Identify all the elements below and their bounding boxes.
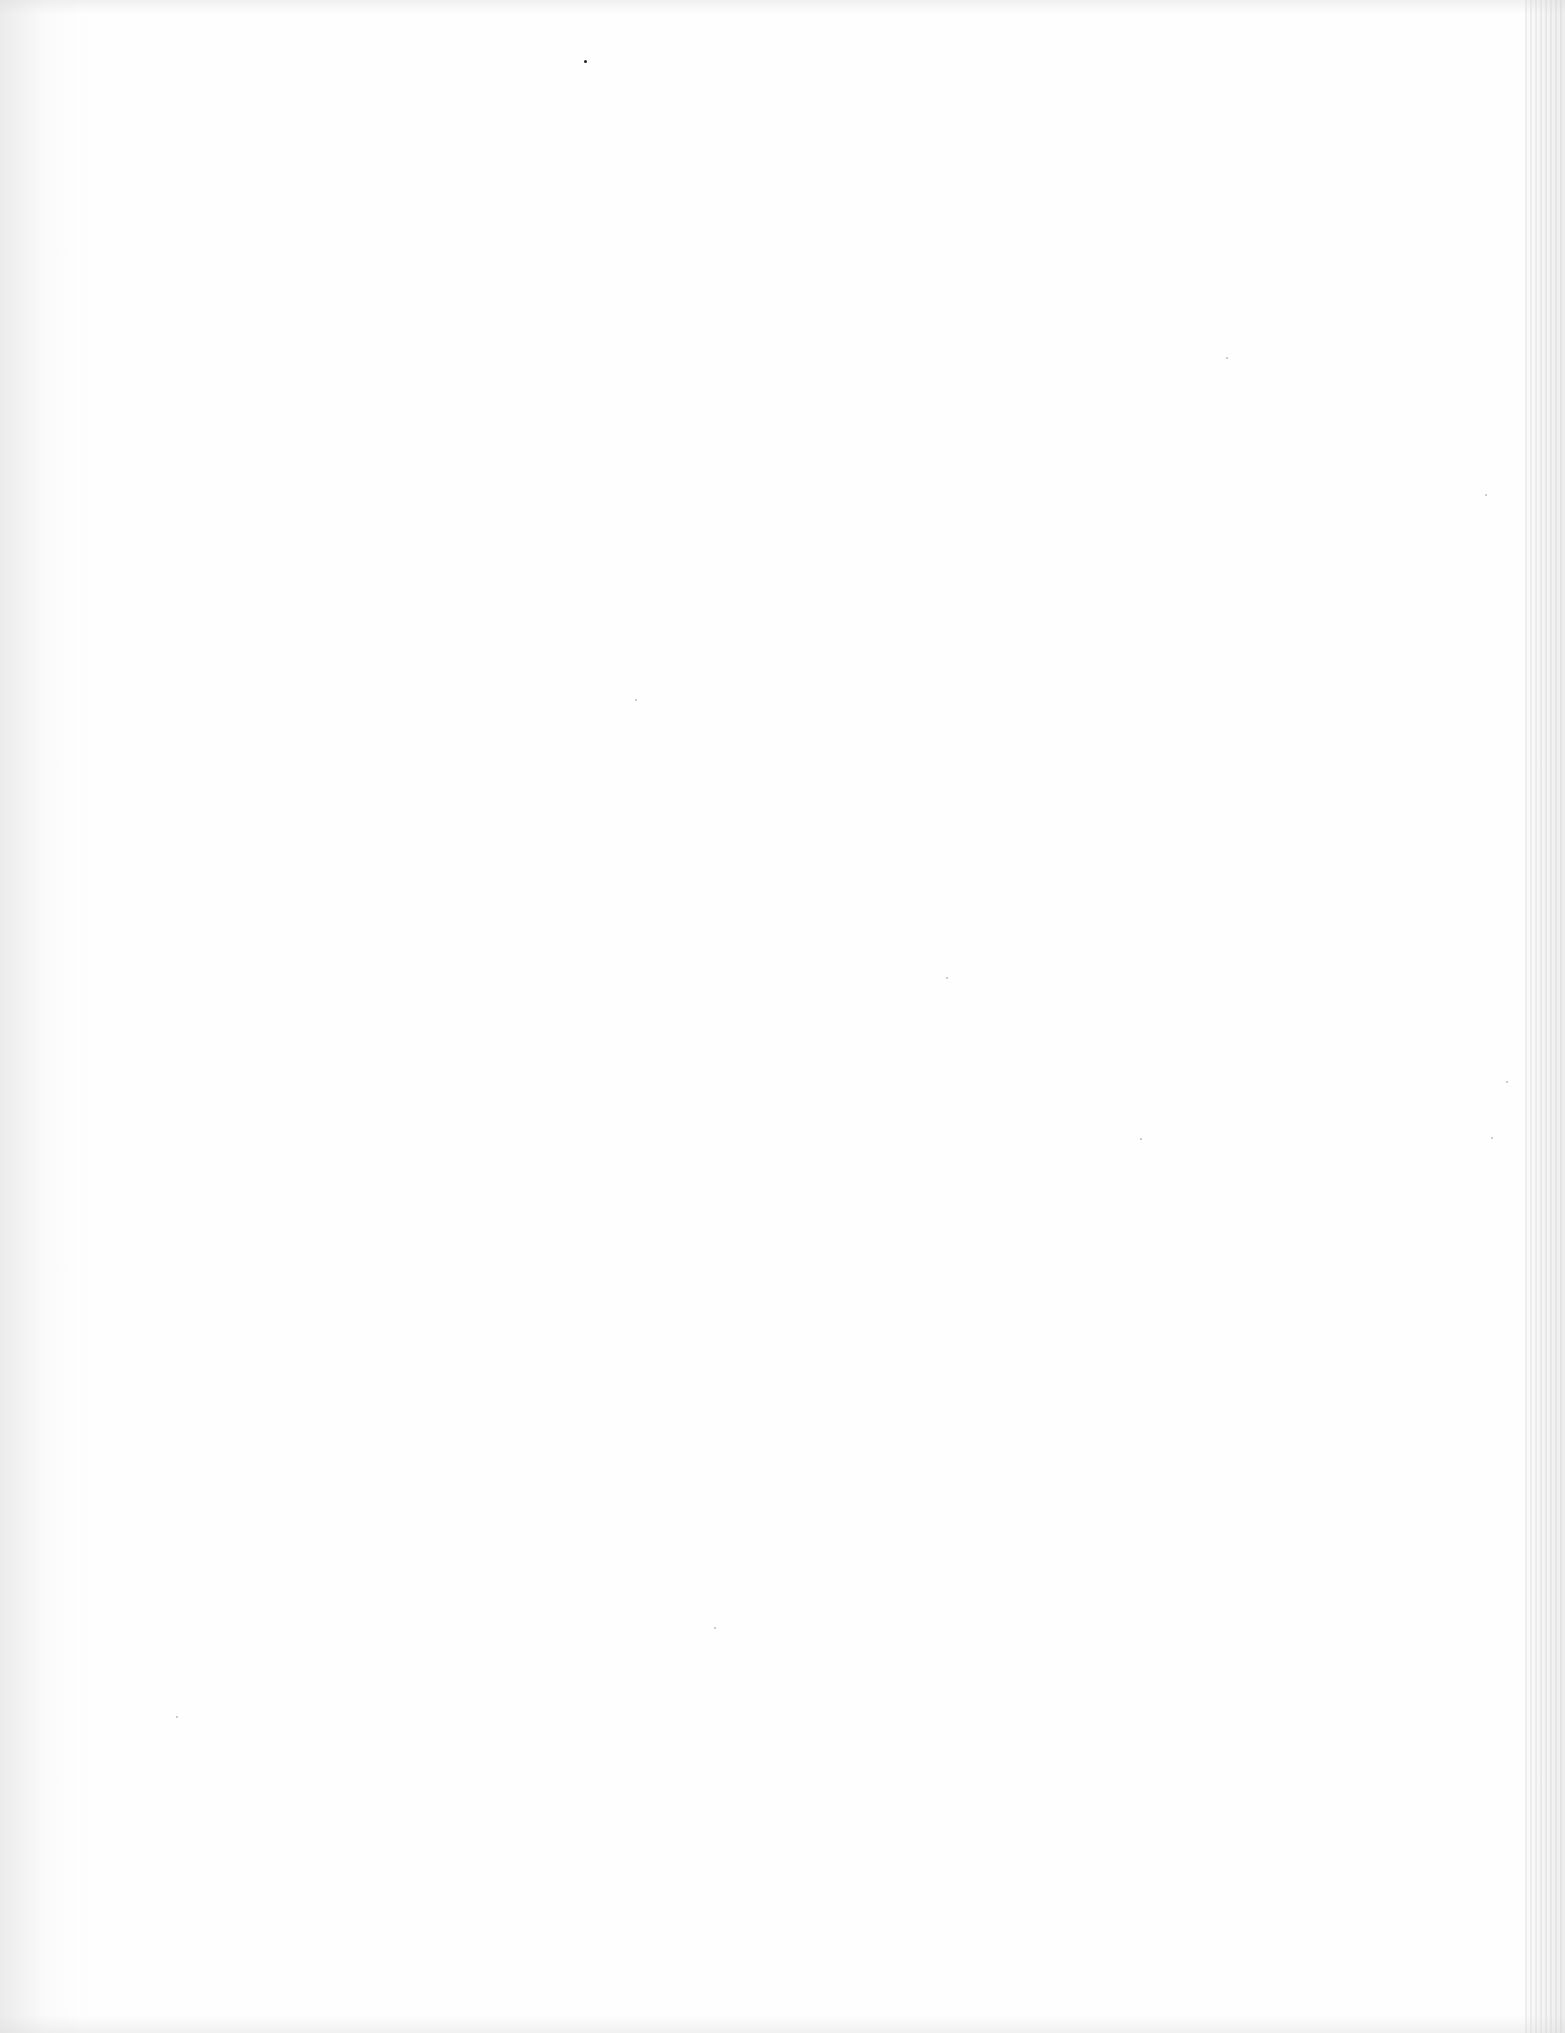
scan-shadow-bottom (0, 2015, 1565, 2033)
scan-shadow-top (0, 0, 1565, 14)
dust-speck (1485, 494, 1487, 496)
dust-speck (1506, 1081, 1508, 1083)
dust-speck (714, 1627, 716, 1629)
dust-speck (946, 977, 948, 979)
blank-page (0, 0, 1565, 2033)
dust-speck (1140, 1138, 1142, 1140)
binding-edge (1525, 0, 1565, 2033)
dust-speck (584, 60, 587, 63)
dust-speck (1226, 357, 1228, 359)
dust-speck (1491, 1137, 1493, 1139)
dust-speck (635, 699, 637, 701)
scan-shadow-left (0, 0, 90, 2033)
dust-speck (176, 1716, 178, 1718)
